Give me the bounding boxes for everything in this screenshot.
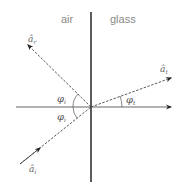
- reflection-angle-arc: [73, 94, 78, 107]
- incident-vector-label: âi: [29, 164, 36, 175]
- incidence-angle-arc: [73, 107, 77, 118]
- reflected-vector-label: âr: [28, 34, 37, 45]
- incidence-angle-label: φi: [57, 111, 66, 123]
- region-label-air: air: [61, 13, 74, 25]
- transmitted-vector-label: ât: [160, 64, 168, 75]
- refraction-diagram: air glass âr ât âi φi φi φt: [0, 0, 182, 187]
- reflection-angle-label: φi: [57, 93, 66, 105]
- transmission-angle-arc: [120, 96, 122, 107]
- region-label-glass: glass: [110, 13, 136, 25]
- incident-arrow: [20, 148, 40, 164]
- transmission-angle-label: φt: [126, 94, 136, 106]
